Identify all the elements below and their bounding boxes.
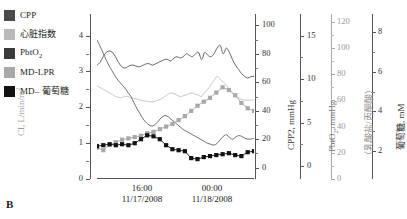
datapoint-lpr-16 [195,104,199,108]
axis-tick-lpr-1 [331,153,335,154]
x-tick-time-2: 00:00 [182,183,242,194]
series-cpp [97,45,254,78]
axis-title-pbto2: PbtO2, mmHg [327,101,339,152]
axis-tick-pbto2-0 [300,166,304,167]
datapoint-lpr-5 [126,136,130,140]
legend-swatch-md-lpr [4,67,15,78]
axis-ticklabel-lpr-5: 100 [337,43,350,52]
axis-ticklabel-pbto2-2: 10 [307,74,316,83]
axis-tick-lpr-6 [331,22,335,23]
datapoint-glucose-2 [108,142,112,146]
axis-spine-pbto2 [300,14,301,179]
legend-swatch-cardiac-index [4,29,15,40]
series-glucose [97,133,254,161]
axis-minortick-ci-2 [86,89,89,90]
axis-spine-lpr [331,14,332,179]
legend-label-md-lpr: MD-LPR [20,67,55,78]
axis-minortick-lpr-4 [331,61,334,62]
datapoint-glucose-23 [239,154,243,158]
axis-tick-ci-3 [86,71,90,72]
axis-tick-cpp-4 [255,54,259,55]
axis-ticklabel-ci-4: 4 [79,31,83,40]
axis-ticklabel-pbto2-0: 0 [307,161,311,170]
axis-minortick-ci-3 [86,54,89,55]
datapoint-glucose-25 [252,149,254,153]
axis-minortick-cpp-2 [255,97,258,98]
axis-minortick-cpp-0 [255,153,258,154]
axis-ticklabel-ci-1: 1 [79,138,83,147]
datapoint-glucose-18 [208,154,212,158]
datapoint-glucose-14 [183,149,187,153]
axis-minortick-lpr-5 [331,35,334,36]
axis-tick-ci-1 [86,143,90,144]
datapoint-lpr-22 [233,93,237,97]
axis-tick-cpp-5 [255,25,259,26]
datapoint-glucose-11 [164,143,168,147]
axis-tick-ci-2 [86,107,90,108]
x-tick-date-2: 11/18/2008 [182,194,242,205]
legend-item-pbto2: PbtO2 [4,44,96,63]
legend-swatch-pbto2 [4,48,15,59]
x-axis [97,179,254,180]
datapoint-glucose-10 [158,137,162,141]
axis-ticklabel-cpp-3: 60 [262,77,271,86]
axis-tick-glucose-2 [372,72,376,73]
axis-minortick-cpp-4 [255,40,258,41]
datapoint-glucose-24 [246,150,250,154]
axis-tick-pbto2-1 [300,123,304,124]
datapoint-lpr-18 [208,96,212,100]
datapoint-lpr-25 [252,109,254,113]
axis-minortick-lpr-3 [331,87,334,88]
axis-minortick-cpp-3 [255,68,258,69]
x-tick-label-2: 00:00 11/18/2008 [182,183,242,205]
legend-label-cpp: CPP [20,10,36,21]
axis-tick-lpr-4 [331,74,335,75]
axis-ticklabel-cpp-4: 80 [262,49,271,58]
axis-minortick-pbto2-0 [300,144,303,145]
axis-ticklabel-glucose-0: 2 [378,146,382,155]
datapoint-lpr-17 [202,100,206,104]
datapoint-lpr-12 [170,122,174,126]
x-tick-label-1: 16:00 11/17/2008 [112,183,172,205]
axis-ticklabel-glucose-2: 6 [378,67,382,76]
datapoint-glucose-20 [221,152,225,156]
axis-spine-ci [90,14,91,179]
axis-title-lactate-pyruvate: （乳酸盐/丙酮酸） [362,85,375,160]
axis-tick-cpp-1 [255,139,259,140]
datapoint-lpr-6 [133,135,137,139]
datapoint-glucose-19 [214,153,218,157]
axis-ticklabel-ci-2: 2 [79,102,83,111]
chart-legend: CPP 心脏指数 PbtO2 MD-LPR MD– 葡萄糖 [4,6,96,101]
axis-tick-cpp-0 [255,168,259,169]
axis-ticklabel-lpr-6: 120 [337,17,350,26]
legend-label-pbto2: PbtO2 [20,47,42,61]
datapoint-lpr-24 [246,106,250,110]
axis-tick-lpr-0 [331,179,335,180]
datapoint-lpr-9 [151,130,155,134]
axis-ticklabel-cpp-1: 20 [262,134,271,143]
axis-ticklabel-pbto2-1: 5 [307,118,311,127]
legend-swatch-cpp [4,10,15,21]
axis-minortick-pbto2-2 [300,57,303,58]
datapoint-lpr-1 [101,148,105,152]
axis-minortick-glucose-2 [372,52,375,53]
datapoint-glucose-22 [233,153,237,157]
datapoint-glucose-12 [170,147,174,151]
datapoint-lpr-20 [221,85,225,89]
datapoint-lpr-14 [183,114,187,118]
x-tick-date-1: 11/17/2008 [112,194,172,205]
datapoint-glucose-1 [101,143,105,147]
plot-area [97,14,254,179]
datapoint-glucose-0 [97,144,99,148]
datapoint-lpr-10 [158,127,162,131]
axis-minortick-ci-0 [86,161,89,162]
legend-item-cpp: CPP [4,6,96,25]
datapoint-lpr-21 [227,88,231,92]
axis-title-cardiac-index: CI, L/min/m2 [14,88,26,136]
datapoint-glucose-17 [202,155,206,159]
axis-ticklabel-cpp-5: 100 [262,20,275,29]
axis-tick-ci-0 [86,179,90,180]
datapoint-glucose-5 [126,143,130,147]
axis-ticklabel-lpr-4: 80 [337,69,346,78]
